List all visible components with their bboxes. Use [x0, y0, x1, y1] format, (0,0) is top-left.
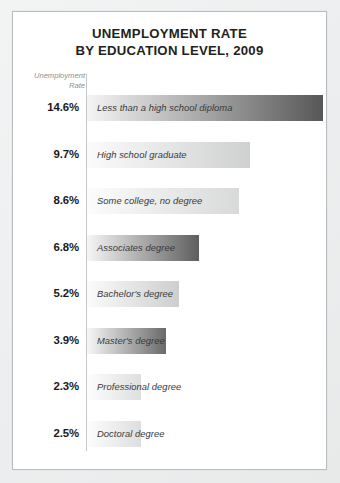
- bar-row: 9.7%High school graduate: [13, 142, 326, 168]
- bar-category-label: Professional degree: [97, 381, 181, 392]
- bar-value-label: 3.9%: [13, 334, 79, 346]
- bar-row: 5.2%Bachelor's degree: [13, 281, 326, 307]
- chart-card: UNEMPLOYMENT RATE BY EDUCATION LEVEL, 20…: [12, 11, 327, 470]
- bar-row: 6.8%Associates degree: [13, 235, 326, 261]
- bar-value-label: 14.6%: [13, 101, 79, 113]
- bar-category-label: Master's degree: [97, 335, 165, 346]
- bar-value-label: 5.2%: [13, 287, 79, 299]
- bar-value-label: 9.7%: [13, 148, 79, 160]
- bar-category-label: Associates degree: [97, 242, 175, 253]
- bar-row: 8.6%Some college, no degree: [13, 188, 326, 214]
- bar-category-label: Some college, no degree: [97, 195, 202, 206]
- bar-value-label: 8.6%: [13, 194, 79, 206]
- bar-category-label: Doctoral degree: [97, 428, 164, 439]
- bar-value-label: 2.5%: [13, 427, 79, 439]
- bar-category-label: Less than a high school diploma: [97, 102, 233, 113]
- bar-category-label: Bachelor's degree: [97, 288, 173, 299]
- bar-row: 2.5%Doctoral degree: [13, 421, 326, 447]
- bar-row: 2.3%Professional degree: [13, 374, 326, 400]
- bar-row: 3.9%Master's degree: [13, 328, 326, 354]
- page-background: UNEMPLOYMENT RATE BY EDUCATION LEVEL, 20…: [0, 0, 340, 483]
- bar-value-label: 6.8%: [13, 241, 79, 253]
- bar-row: 14.6%Less than a high school diploma: [13, 95, 326, 121]
- bar-category-label: High school graduate: [97, 149, 187, 160]
- bar-value-label: 2.3%: [13, 380, 79, 392]
- bar-chart-plot: 14.6%Less than a high school diploma9.7%…: [13, 12, 326, 469]
